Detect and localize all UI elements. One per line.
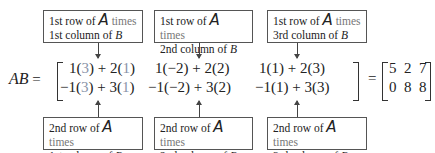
matrix-cell-r2c2: −1(−2) + 3(2)	[148, 79, 231, 96]
annotation-box-r2c3: 2nd row of A times 3rd column of B	[267, 117, 367, 150]
annotation-box-r2c2: 2nd row of A times 2nd column of B	[154, 117, 253, 150]
equals-sign: =	[368, 70, 376, 87]
annotation-box-r1c1: 1st row of A times 1st column of B	[43, 10, 143, 43]
result-cell-r1c2: 2	[404, 60, 412, 77]
matrix-cell-r2c3: −1(1) + 3(3)	[255, 79, 329, 96]
arrow-up-icon	[297, 101, 298, 117]
arrow-down-icon	[98, 43, 99, 58]
arrow-down-icon	[297, 43, 298, 58]
result-cell-r2c2: 8	[404, 79, 412, 96]
annotation-box-r1c3: 1st row of A times 3rd column of B	[267, 10, 367, 43]
result-right-bracket	[425, 62, 431, 101]
annotation-box-r2c1: 2nd row of A times 1st column of B	[43, 117, 143, 150]
matrix-cell-r1c2: 1(−2) + 2(2)	[155, 60, 229, 77]
matrix-cell-r1c3: 1(1) + 2(3)	[259, 60, 325, 77]
matrix-cell-r2c1: −1(3) + 3(1)	[60, 79, 134, 96]
right-bracket	[353, 62, 359, 101]
result-cell-r1c1: 5	[389, 60, 397, 77]
result-left-bracket	[382, 62, 388, 101]
arrow-up-icon	[98, 101, 99, 117]
arrow-up-icon	[199, 101, 200, 117]
annotation-box-r1c2: 1st row of A times 2nd column of B	[154, 10, 253, 43]
equation-lhs: AB =	[9, 70, 41, 88]
matrix-cell-r1c1: 1(3) + 2(1)	[69, 60, 135, 77]
result-cell-r2c1: 0	[389, 79, 397, 96]
arrow-down-icon	[199, 43, 200, 58]
